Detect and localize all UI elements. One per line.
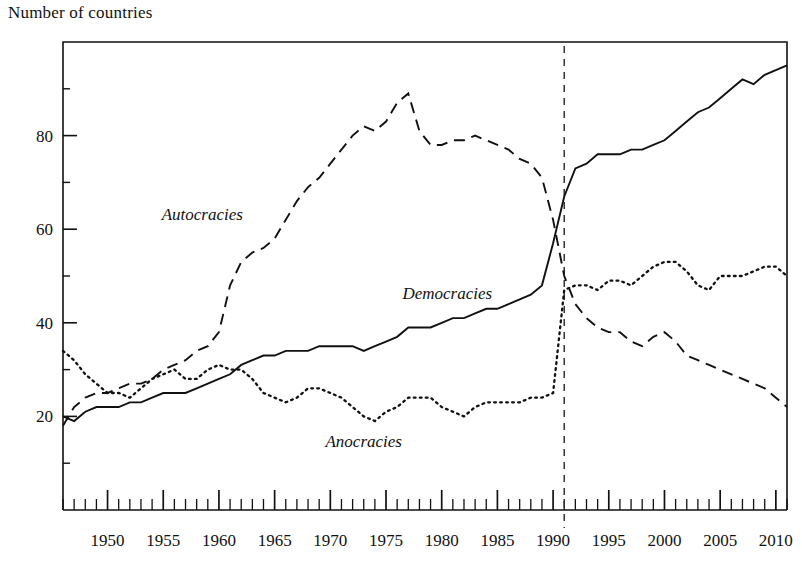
y-tick-label: 40	[36, 314, 53, 333]
x-tick-label: 1965	[258, 531, 292, 550]
x-tick-label: 1950	[91, 531, 125, 550]
series-line-autocracies	[63, 93, 787, 425]
chart-container: Number of countries 20406080 19501955196…	[0, 0, 802, 572]
x-tick-label: 1960	[202, 531, 236, 550]
x-axis-ticks	[63, 490, 787, 510]
x-tick-label: 1975	[369, 531, 403, 550]
x-tick-label: 1970	[313, 531, 347, 550]
y-axis-title: Number of countries	[8, 3, 152, 23]
plot-frame	[63, 42, 787, 510]
x-tick-label: 2005	[703, 531, 737, 550]
y-axis-tick-labels: 20406080	[36, 127, 53, 427]
x-tick-label: 1985	[480, 531, 514, 550]
y-tick-label: 20	[36, 407, 53, 426]
x-axis-tick-labels: 1950195519601965197019751980198519901995…	[91, 531, 793, 550]
annotation-democracies: Democracies	[401, 284, 492, 303]
x-tick-label: 2000	[647, 531, 681, 550]
data-series-group	[63, 65, 787, 425]
x-tick-label: 1980	[425, 531, 459, 550]
x-tick-label: 1995	[592, 531, 626, 550]
series-line-democracies	[63, 65, 787, 421]
y-tick-label: 60	[36, 220, 53, 239]
x-tick-label: 2010	[759, 531, 793, 550]
annotation-anocracies: Anocracies	[324, 432, 402, 451]
annotation-autocracies: Autocracies	[161, 205, 244, 224]
x-tick-label: 1990	[536, 531, 570, 550]
line-chart-plot: 20406080 1950195519601965197019751980198…	[0, 0, 802, 572]
series-annotations: AutocraciesDemocraciesAnocracies	[161, 205, 493, 451]
y-tick-label: 80	[36, 127, 53, 146]
x-tick-label: 1955	[146, 531, 180, 550]
